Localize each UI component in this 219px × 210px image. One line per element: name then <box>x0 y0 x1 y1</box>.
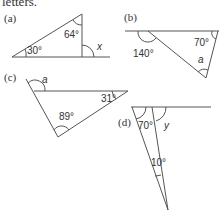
figure-label-b: (b) <box>124 12 137 23</box>
unknown-c-a: a <box>42 75 48 85</box>
angle-c-31: 31° <box>101 94 116 104</box>
angle-d-70: 70° <box>138 121 153 131</box>
angle-b-140: 140° <box>133 49 154 59</box>
figure-label-c: (c) <box>4 72 16 83</box>
angle-c-89: 89° <box>59 112 74 122</box>
angle-a-64: 64° <box>64 30 79 40</box>
angle-d-10: 10° <box>151 158 166 168</box>
angle-b-70: 70° <box>194 38 209 48</box>
geometry-figures <box>0 0 219 210</box>
figure-label-a: (a) <box>4 13 16 24</box>
angle-a-30: 30° <box>27 46 42 56</box>
figure-label-d: (d) <box>118 117 131 128</box>
unknown-b-a: a <box>198 55 204 65</box>
triangle-c <box>26 79 128 137</box>
unknown-a-x: x <box>97 42 102 52</box>
unknown-d-y: y <box>164 121 169 131</box>
